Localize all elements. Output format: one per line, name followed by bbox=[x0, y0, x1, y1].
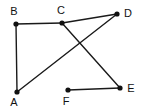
graph-vertex-b bbox=[13, 21, 18, 26]
vertex-label-b: B bbox=[10, 5, 17, 17]
vertex-label-f: F bbox=[63, 95, 70, 107]
graph-canvas: ABCDEF bbox=[0, 0, 148, 110]
vertex-label-a: A bbox=[10, 96, 18, 108]
vertex-label-d: D bbox=[124, 7, 132, 19]
graph-vertex-f bbox=[65, 87, 70, 92]
labels-group: ABCDEF bbox=[10, 4, 134, 108]
graph-vertex-e bbox=[117, 85, 122, 90]
graph-edge-b-a bbox=[16, 24, 17, 92]
graph-vertex-c bbox=[59, 20, 64, 25]
graph-edge-c-e bbox=[62, 23, 120, 88]
graph-edge-a-d bbox=[17, 14, 117, 92]
graph-vertex-a bbox=[14, 89, 19, 94]
vertex-label-c: C bbox=[57, 4, 65, 16]
graph-diagram: ABCDEF bbox=[0, 0, 148, 110]
vertex-label-e: E bbox=[127, 82, 134, 94]
graph-edge-f-e bbox=[68, 88, 120, 90]
graph-edge-b-c bbox=[16, 23, 62, 24]
graph-edge-c-d bbox=[62, 14, 117, 23]
graph-vertex-d bbox=[114, 11, 119, 16]
edges-group bbox=[16, 14, 120, 92]
